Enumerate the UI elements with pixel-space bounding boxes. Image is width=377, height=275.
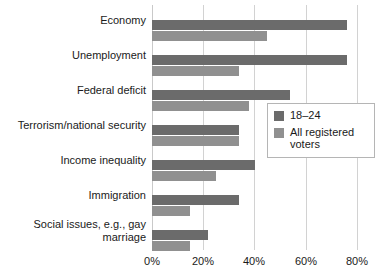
y-axis-label-6: Social issues, e.g., gay marriage <box>0 218 146 243</box>
bar-group-income-inequality <box>152 154 357 189</box>
legend-label-18-24: 18–24 <box>290 109 321 122</box>
y-axis-label-5: Immigration <box>0 189 146 202</box>
x-tick-label-20: 20% <box>192 255 214 267</box>
bar-group-immigration <box>152 189 357 224</box>
legend-label-all-registered-voters: All registered voters <box>290 126 369 151</box>
bar-terrorism-all-registered-voters <box>152 136 239 146</box>
legend-swatch-icon-18-24 <box>274 111 284 121</box>
legend-swatch-icon-all-registered-voters <box>274 128 284 138</box>
x-axis: 0% 20% 40% 60% 80% <box>152 252 357 272</box>
bar-income-inequality-18-24 <box>152 160 255 170</box>
bar-unemployment-all-registered-voters <box>152 66 239 76</box>
y-axis-label-4: Income inequality <box>0 154 146 167</box>
bar-immigration-all-registered-voters <box>152 206 190 216</box>
x-tick-label-40: 40% <box>243 255 265 267</box>
legend-entry-all-registered-voters: All registered voters <box>274 126 369 151</box>
bar-terrorism-18-24 <box>152 125 239 135</box>
bar-social-issues-all-registered-voters <box>152 241 190 251</box>
bar-immigration-18-24 <box>152 195 239 205</box>
bar-income-inequality-all-registered-voters <box>152 171 216 181</box>
bar-economy-all-registered-voters <box>152 31 267 41</box>
y-axis-label-1: Unemployment <box>0 49 146 62</box>
x-tick-label-80: 80% <box>346 255 368 267</box>
y-axis-label-3: Terrorism/national security <box>0 119 146 132</box>
bar-group-unemployment <box>152 49 357 84</box>
legend-entry-18-24: 18–24 <box>274 109 369 122</box>
bar-federal-deficit-all-registered-voters <box>152 101 249 111</box>
x-tick-label-0: 0% <box>144 255 160 267</box>
y-axis-label-2: Federal deficit <box>0 84 146 97</box>
y-axis-label-0: Economy <box>0 14 146 27</box>
chart-legend: 18–24 All registered voters <box>267 103 375 158</box>
bar-group-economy <box>152 14 357 49</box>
bar-federal-deficit-18-24 <box>152 90 290 100</box>
bar-social-issues-18-24 <box>152 230 208 240</box>
bar-unemployment-18-24 <box>152 55 347 65</box>
bar-chart: Economy Unemployment Federal deficit Ter… <box>0 0 377 275</box>
bar-economy-18-24 <box>152 20 347 30</box>
x-tick-label-60: 60% <box>295 255 317 267</box>
